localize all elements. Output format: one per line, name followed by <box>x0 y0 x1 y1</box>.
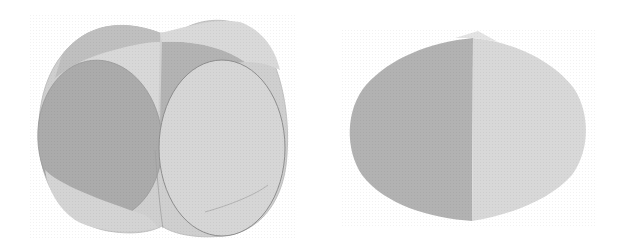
cylinder-intersection-figure <box>340 28 595 228</box>
cylinder-union-figure <box>30 15 295 240</box>
figures-svg <box>0 0 631 252</box>
diagram-canvas <box>0 0 631 252</box>
